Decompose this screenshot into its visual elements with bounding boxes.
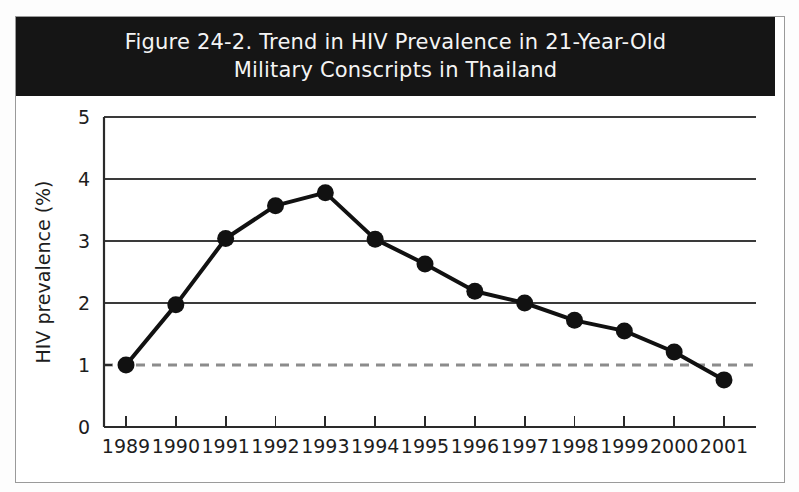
data-point-1997 (516, 295, 533, 312)
chart-plot-area: 012345 198919901991199219931994199519961… (0, 0, 799, 492)
y-axis-title: HIV prevalence (%) (32, 180, 54, 363)
x-tick-label-1998: 1998 (550, 435, 598, 457)
x-tick-label-1994: 1994 (351, 435, 399, 457)
y-tick-label-5: 5 (78, 106, 90, 128)
x-axis-tick-labels: 1989199019911992199319941995199619971998… (102, 435, 748, 457)
y-tick-label-0: 0 (78, 416, 90, 438)
x-tick-label-2001: 2001 (700, 435, 748, 457)
y-tick-label-3: 3 (78, 230, 90, 252)
x-tick-label-1990: 1990 (152, 435, 200, 457)
data-point-2000 (666, 343, 683, 360)
x-tick-label-1991: 1991 (201, 435, 249, 457)
gridlines (104, 117, 756, 303)
data-point-1998 (566, 312, 583, 329)
x-tick-label-1995: 1995 (401, 435, 449, 457)
data-point-1992 (267, 197, 284, 214)
x-tick-label-1989: 1989 (102, 435, 150, 457)
data-point-markers (118, 184, 733, 388)
y-axis-tick-labels: 012345 (78, 106, 112, 438)
series-line-0 (126, 193, 724, 380)
y-tick-label-4: 4 (78, 168, 90, 190)
x-tick-label-1992: 1992 (251, 435, 299, 457)
data-series (126, 193, 724, 380)
data-point-1999 (616, 322, 633, 339)
data-point-1991 (217, 230, 234, 247)
x-tick-label-2000: 2000 (650, 435, 698, 457)
y-axis-title-text: HIV prevalence (%) (32, 180, 54, 363)
data-point-1993 (317, 184, 334, 201)
x-tick-label-1996: 1996 (451, 435, 499, 457)
y-tick-label-2: 2 (78, 292, 90, 314)
data-point-1996 (466, 283, 483, 300)
x-tick-label-1999: 1999 (600, 435, 648, 457)
data-point-1995 (417, 255, 434, 272)
y-tick-label-1: 1 (78, 354, 90, 376)
x-axis-ticks (126, 416, 724, 427)
x-tick-label-1997: 1997 (500, 435, 548, 457)
data-point-2001 (716, 371, 733, 388)
figure-container: Figure 24-2. Trend in HIV Prevalence in … (0, 0, 799, 492)
line-chart: 012345 198919901991199219931994199519961… (0, 0, 799, 492)
data-point-1990 (167, 296, 184, 313)
data-point-1994 (367, 231, 384, 248)
data-point-1989 (118, 357, 135, 374)
x-tick-label-1993: 1993 (301, 435, 349, 457)
